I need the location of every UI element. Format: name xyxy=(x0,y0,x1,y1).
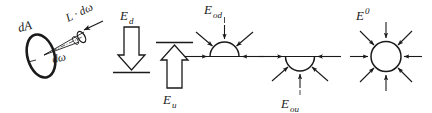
label-Eu-subscript: u xyxy=(172,100,177,110)
inward-arrows-ou xyxy=(259,57,341,89)
upward-irradiance-panel xyxy=(156,43,193,89)
label-radiance: L · dω xyxy=(63,0,95,24)
upward-scalar-irradiance-panel xyxy=(259,57,341,96)
block-arrow-up xyxy=(161,45,188,88)
downward-irradiance-panel xyxy=(113,27,150,73)
inward-arrows-od xyxy=(185,25,264,57)
radiance-direction-arrow xyxy=(84,21,103,30)
inward-arrows-total xyxy=(350,22,422,91)
label-Eu-symbol: E xyxy=(162,92,171,107)
label-E0-superscript: 0 xyxy=(365,6,370,16)
downward-scalar-irradiance-panel xyxy=(185,17,264,57)
label-Eod-subscript: od xyxy=(213,10,223,20)
label-upward-irradiance: E u xyxy=(162,92,177,110)
upper-hemisphere xyxy=(210,42,239,57)
full-circle xyxy=(371,42,401,72)
label-Ed-subscript: d xyxy=(129,16,134,26)
label-Ed-symbol: E xyxy=(119,8,128,23)
block-arrow-down xyxy=(118,27,145,70)
lower-hemisphere xyxy=(286,57,315,72)
total-scalar-irradiance-panel xyxy=(350,22,422,91)
label-total-scalar-irradiance: E 0 xyxy=(355,6,370,23)
label-downward-irradiance: E d xyxy=(119,8,134,26)
label-Eou-subscript: ou xyxy=(290,104,300,113)
label-upward-scalar-irradiance: E ou xyxy=(280,96,300,113)
label-E0-symbol: E xyxy=(355,8,364,23)
label-solid-angle: dω xyxy=(51,50,67,65)
radiometry-figure: dA L · dω dω E d E u E od E ou E 0 xyxy=(0,0,432,113)
label-downward-scalar-irradiance: E od xyxy=(203,2,223,20)
figure-canvas: dA L · dω dω E d E u E od E ou E 0 xyxy=(0,0,432,113)
label-differential-area: dA xyxy=(17,18,34,35)
label-Eod-symbol: E xyxy=(203,2,212,17)
label-Eou-symbol: E xyxy=(280,96,289,111)
